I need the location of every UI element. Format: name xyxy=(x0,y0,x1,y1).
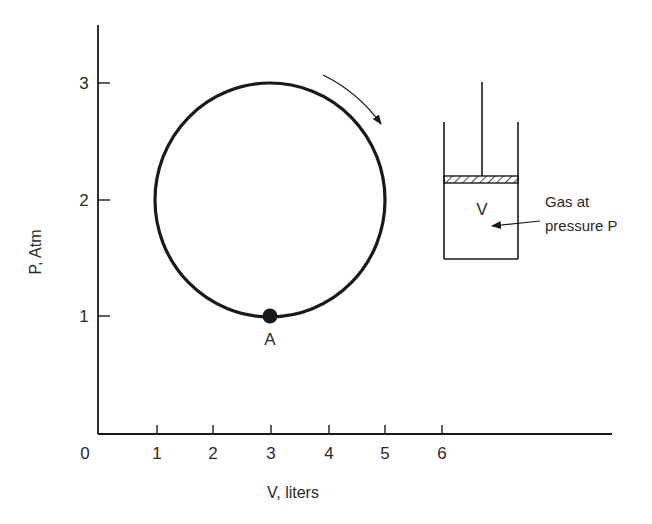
y-tick-label-2: 2 xyxy=(79,191,88,210)
y-tick-label-1: 1 xyxy=(79,307,88,326)
point-a-marker xyxy=(263,309,278,324)
x-axis-title: V, liters xyxy=(267,484,319,501)
pv-cycle-circle xyxy=(155,83,385,317)
gas-annotation-line1: Gas at xyxy=(545,193,590,210)
x-tick-label-3: 3 xyxy=(266,444,275,463)
annotation-pointer-arrow-icon xyxy=(492,221,540,226)
piston-head xyxy=(444,176,518,183)
x-origin-label: 0 xyxy=(80,444,89,463)
cylinder-volume-label: V xyxy=(476,200,488,219)
x-tick-label-6: 6 xyxy=(437,444,446,463)
y-axis-title: P, Atm xyxy=(27,229,44,274)
x-tick-label-1: 1 xyxy=(152,444,161,463)
point-a-label: A xyxy=(264,330,276,349)
axes xyxy=(98,25,612,434)
y-tick-label-3: 3 xyxy=(79,74,88,93)
x-tick-label-4: 4 xyxy=(324,444,333,463)
gas-annotation-line2: pressure P xyxy=(545,217,618,234)
x-tick-label-5: 5 xyxy=(380,444,389,463)
piston-cylinder-illustration xyxy=(444,82,518,259)
x-tick-label-2: 2 xyxy=(208,444,217,463)
pv-diagram: 3 2 1 0 1 2 3 4 5 6 V, liters P, Atm A V… xyxy=(0,0,652,524)
